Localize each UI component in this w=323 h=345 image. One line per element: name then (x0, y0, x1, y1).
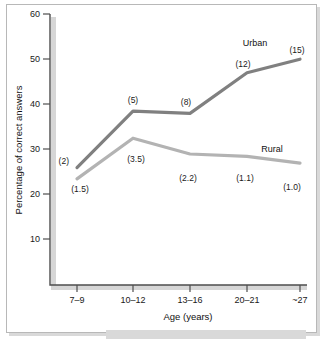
y-tick-label: 50 (30, 54, 40, 64)
series-label-rural: Rural (261, 144, 283, 154)
x-tick-label: ~27 (292, 295, 307, 305)
bottom-gray-bar (106, 330, 306, 339)
data-label-rural: (1.5) (71, 184, 89, 194)
x-tick-label: 20–21 (234, 295, 259, 305)
plot-area: 60 50 40 30 20 10 7–9 10–12 13–16 20–21 (0, 0, 323, 345)
y-tick-label: 60 (30, 9, 40, 19)
data-label-urban: (12) (235, 59, 250, 69)
x-tick-labels: 7–9 10–12 13–16 20–21 ~27 (69, 295, 307, 305)
y-tick-label: 10 (30, 234, 40, 244)
y-tick-label: 20 (30, 189, 40, 199)
data-label-rural: (2.2) (179, 173, 197, 183)
data-label-rural: (3.5) (127, 154, 145, 164)
y-tick-label: 40 (30, 99, 40, 109)
data-label-urban: (2) (59, 156, 70, 166)
x-tick-label: 7–9 (69, 295, 84, 305)
data-label-urban: (8) (181, 97, 192, 107)
data-label-urban: (5) (128, 95, 139, 105)
y-tick-marks (43, 14, 50, 239)
y-axis-title: Percentage of correct answers (13, 85, 24, 214)
data-label-urban: (15) (289, 45, 304, 55)
data-label-rural: (1.1) (236, 173, 254, 183)
chart-svg: 60 50 40 30 20 10 7–9 10–12 13–16 20–21 (0, 0, 323, 345)
y-tick-labels: 60 50 40 30 20 10 (30, 9, 40, 244)
x-axis-title: Age (years) (163, 311, 212, 322)
series-label-urban: Urban (243, 38, 268, 48)
x-tick-label: 10–12 (120, 295, 145, 305)
data-label-rural: (1.0) (283, 182, 301, 192)
y-tick-label: 30 (30, 144, 40, 154)
x-tick-label: 13–16 (177, 295, 202, 305)
figure-container: 60 50 40 30 20 10 7–9 10–12 13–16 20–21 (0, 0, 323, 345)
